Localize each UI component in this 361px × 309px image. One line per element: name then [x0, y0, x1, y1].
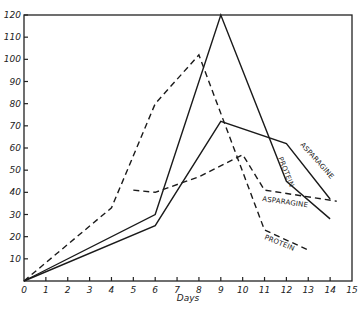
x-tick-label: 11 [259, 285, 270, 295]
x-tick-label: 1 [43, 285, 49, 295]
x-tick-label: 9 [218, 285, 224, 295]
y-tick-label: 10 [10, 254, 22, 264]
x-tick-label: 13 [303, 285, 315, 295]
x-axis-label: Days [177, 293, 200, 303]
y-tick-label: 20 [10, 232, 22, 242]
x-tick-label: 3 [87, 285, 93, 295]
label-solid-protein: PROTEIN [276, 156, 295, 189]
y-tick-label: 90 [10, 77, 22, 87]
x-tick-label: 4 [109, 285, 115, 295]
label-solid-asparagine: ASPARAGINE [299, 141, 336, 181]
line-chart: 102030405060708090100110120 012345678910… [0, 0, 361, 309]
series-lines [24, 15, 337, 281]
y-tick-label: 60 [10, 143, 22, 153]
x-tick-label: 12 [281, 285, 293, 295]
y-tick-label: 30 [10, 210, 22, 220]
x-tick-label: 15 [346, 285, 358, 295]
y-tick-label: 70 [10, 121, 22, 131]
series-dashed-asparagine [133, 155, 336, 202]
series-dashed-protein [24, 55, 308, 281]
y-tick-label: 40 [10, 187, 22, 197]
x-tick-label: 2 [65, 285, 71, 295]
x-tick-label: 10 [237, 285, 249, 295]
label-dashed-asparagine: ASPARAGINE [262, 195, 309, 209]
y-tick-label: 50 [10, 165, 22, 175]
x-tick-label: 14 [324, 285, 336, 295]
y-tick-label: 120 [4, 10, 21, 20]
y-tick-label: 80 [10, 99, 22, 109]
x-tick-label: 5 [130, 285, 136, 295]
x-tick-label: 0 [21, 285, 27, 295]
y-tick-label: 110 [4, 32, 21, 42]
x-tick-label: 6 [152, 285, 158, 295]
y-tick-label: 100 [4, 54, 21, 64]
